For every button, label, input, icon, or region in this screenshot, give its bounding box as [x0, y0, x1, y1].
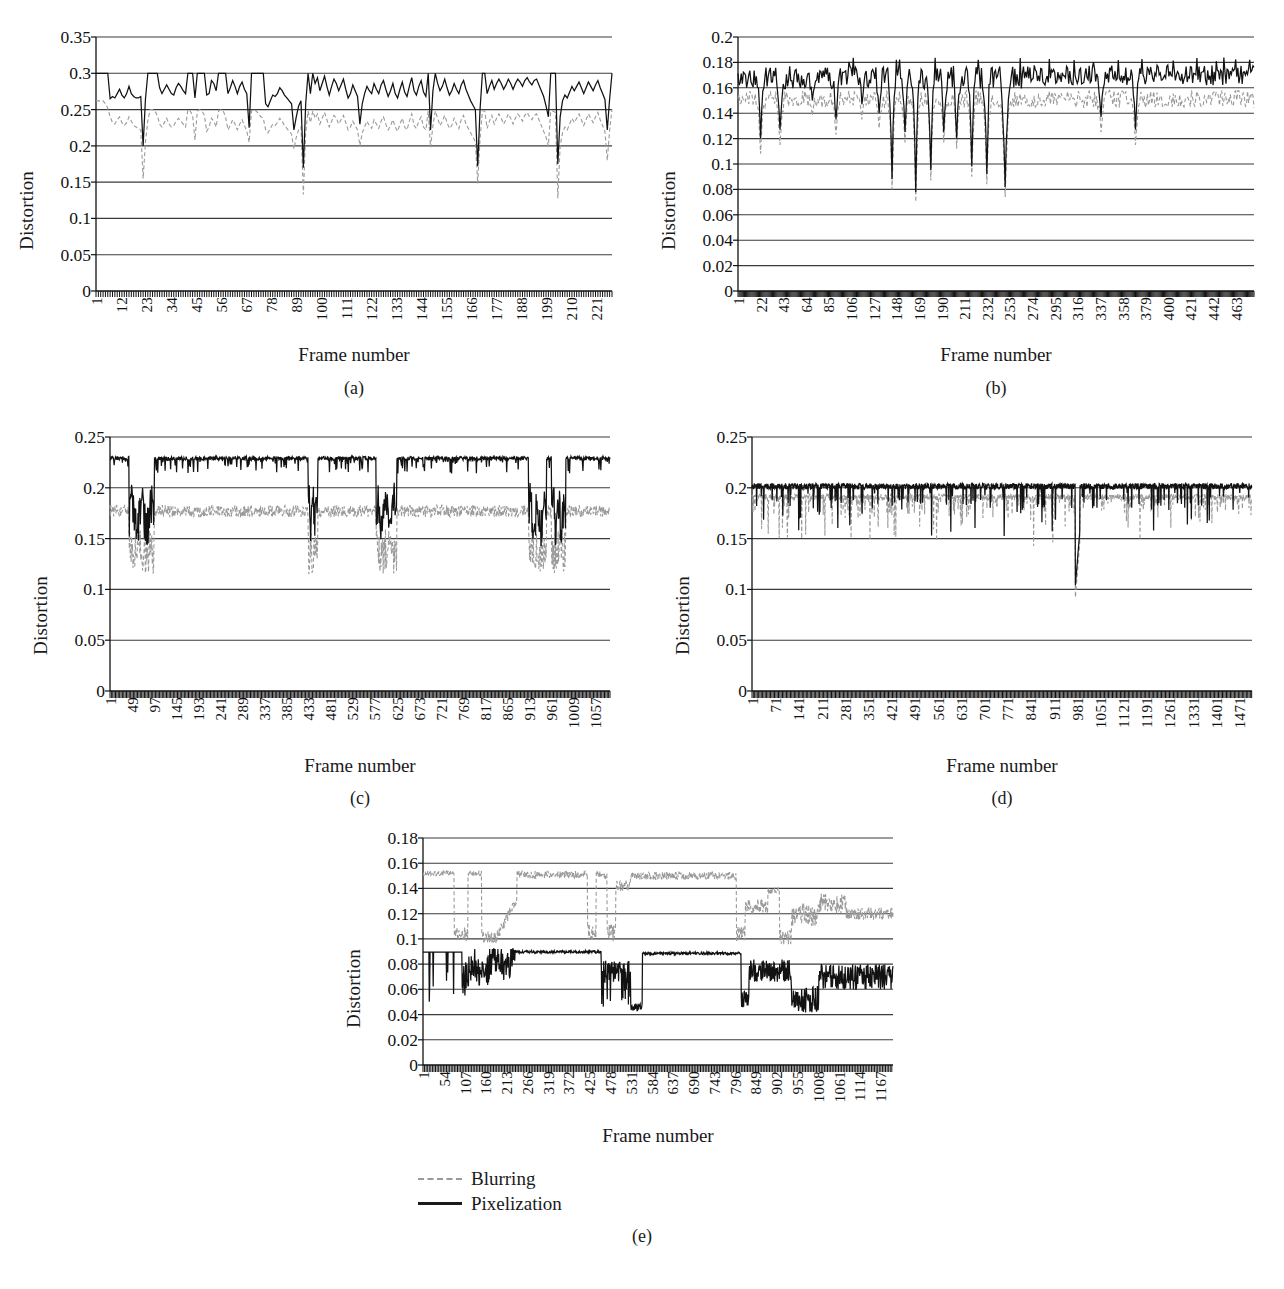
- x-tick: 67: [239, 297, 256, 313]
- y-tick: 0.25: [74, 427, 105, 448]
- x-tick: 771: [1000, 697, 1017, 720]
- x-tick: 637: [665, 1071, 682, 1094]
- series-line-pixelization-a: [96, 73, 612, 167]
- y-tick: 0.25: [60, 99, 91, 120]
- y-tick: 0.15: [60, 172, 91, 193]
- x-tick: 106: [844, 297, 861, 320]
- x-tick: 122: [364, 297, 381, 320]
- plot-area-a: [96, 37, 612, 291]
- x-tick: 43: [776, 297, 793, 313]
- x-tick: 54: [437, 1071, 454, 1087]
- y-tick: 0.35: [60, 27, 91, 48]
- x-tick: 796: [728, 1071, 745, 1094]
- x-tick: 531: [624, 1071, 641, 1094]
- x-tick: 64: [799, 297, 816, 313]
- y-tick: 0.12: [702, 128, 733, 149]
- y-tick: 0.05: [716, 630, 747, 651]
- x-tick: 169: [912, 297, 929, 320]
- x-tick: 561: [931, 697, 948, 720]
- y-ticks-c: 0.25 0.2 0.15 0.1 0.05 0: [48, 437, 105, 691]
- y-tick: 0.18: [702, 52, 733, 73]
- solid-line-icon: [418, 1202, 462, 1204]
- subcaption-b: (b): [738, 378, 1254, 399]
- x-ticks-a: 1122334455667788910011112213314415516617…: [96, 297, 612, 339]
- subcaption-d: (d): [752, 788, 1252, 809]
- chart-panel-d: Distortion 0.25 0.2 0.15 0.1 0.05 0: [642, 405, 1284, 805]
- y-tick: 0.15: [716, 528, 747, 549]
- y-tick: 0.1: [83, 579, 105, 600]
- y-tick: 0.1: [69, 208, 91, 229]
- x-tick: 433: [301, 697, 318, 720]
- gridlines-d: [752, 437, 1252, 691]
- x-tick: 529: [345, 697, 362, 720]
- x-tick: 145: [169, 697, 186, 720]
- x-tick: 421: [1183, 297, 1200, 320]
- x-tick: 1009: [566, 697, 583, 728]
- y-tick: 0.05: [74, 630, 105, 651]
- y-tick: 0.1: [396, 928, 418, 949]
- legend-item-blurring: Blurring: [418, 1166, 562, 1191]
- x-tick: 127: [867, 297, 884, 320]
- dashed-line-icon: [418, 1178, 462, 1180]
- x-tick: 701: [977, 697, 994, 720]
- y-tick: 0.1: [711, 154, 733, 175]
- x-tick: 584: [645, 1071, 662, 1094]
- x-tick: 721: [434, 697, 451, 720]
- x-ticks-e: 1541071602132663193724254785315846376907…: [423, 1071, 893, 1123]
- chart-panel-a: Distortion 0.35 0.3 0.25 0.2 0.15 0.1 0.…: [0, 0, 642, 400]
- x-tick: 577: [367, 697, 384, 720]
- x-tick: 210: [564, 297, 581, 320]
- x-tick: 49: [125, 697, 142, 713]
- x-tick: 45: [189, 297, 206, 313]
- x-tick: 56: [214, 297, 231, 313]
- x-tick: 22: [754, 297, 771, 313]
- x-tick: 155: [439, 297, 456, 320]
- x-tick: 1401: [1209, 697, 1226, 728]
- y-ticks-d: 0.25 0.2 0.15 0.1 0.05 0: [690, 437, 747, 691]
- figure-legend: Blurring Pixelization: [418, 1166, 562, 1216]
- x-tick: 166: [464, 297, 481, 320]
- y-tickmarks-d: [747, 437, 752, 691]
- y-tick: 0.15: [74, 528, 105, 549]
- x-tick: 631: [954, 697, 971, 720]
- y-tick: 0.02: [387, 1029, 418, 1050]
- x-tick: 981: [1070, 697, 1087, 720]
- x-tick: 1331: [1186, 697, 1203, 728]
- x-tick: 351: [861, 697, 878, 720]
- x-tick: 281: [838, 697, 855, 720]
- x-tick: 111: [339, 297, 356, 319]
- x-tick: 148: [889, 297, 906, 320]
- y-tick: 0.06: [702, 204, 733, 225]
- subcaption-e: (e): [321, 1226, 963, 1247]
- x-tick: 85: [821, 297, 838, 313]
- x-tick: 769: [456, 697, 473, 720]
- y-tick: 0.02: [702, 255, 733, 276]
- x-tick: 133: [389, 297, 406, 320]
- y-tick: 0.2: [69, 135, 91, 156]
- x-tick: 188: [514, 297, 531, 320]
- x-tick: 1471: [1232, 697, 1249, 728]
- y-tick: 0.2: [725, 477, 747, 498]
- y-tick: 0.06: [387, 979, 418, 1000]
- x-tick: 23: [139, 297, 156, 313]
- x-tick: 955: [790, 1071, 807, 1094]
- x-tick: 1191: [1139, 697, 1156, 728]
- x-tick: 190: [935, 297, 952, 320]
- x-tick: 253: [1002, 297, 1019, 320]
- x-tick: 232: [980, 297, 997, 320]
- y-tick: 0.25: [716, 427, 747, 448]
- x-tick: 1: [416, 1071, 433, 1079]
- chart-panel-e: Distortion 0.18 0.16 0.14 0.12 0.1 0.08 …: [321, 818, 963, 1118]
- x-tick: 673: [412, 697, 429, 720]
- y-tick: 0.3: [69, 63, 91, 84]
- x-tick: 199: [539, 297, 556, 320]
- y-tick: 0.12: [387, 903, 418, 924]
- x-tick: 817: [478, 697, 495, 720]
- x-tick: 241: [213, 697, 230, 720]
- legend-label-pixelization: Pixelization: [471, 1193, 562, 1215]
- y-tick: 0.16: [387, 853, 418, 874]
- x-ticks-d: 1711412112813514214915616317017718419119…: [752, 697, 1252, 749]
- series-line-blurring-b: [738, 90, 1254, 202]
- y-tickmarks-a: [91, 37, 96, 291]
- x-tick: 1261: [1162, 697, 1179, 728]
